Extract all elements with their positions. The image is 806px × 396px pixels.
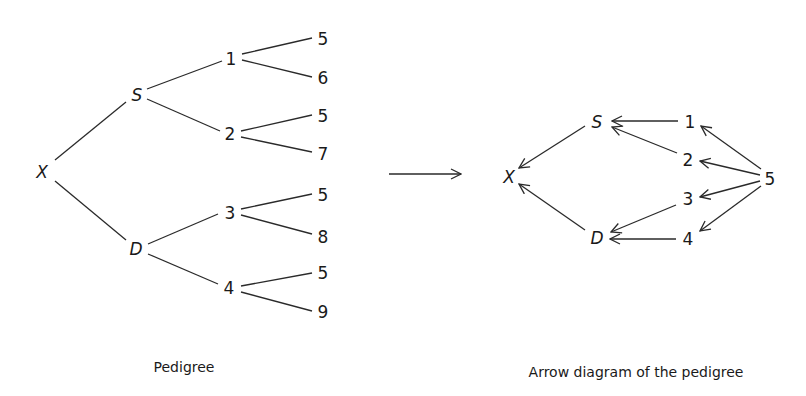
edge-s-1 xyxy=(147,61,222,89)
node-4: 4 xyxy=(683,229,694,249)
edge-1-5 xyxy=(242,38,312,54)
edge-4-5 xyxy=(241,273,312,286)
node-gg-2: 6 xyxy=(318,68,329,88)
node-2: 2 xyxy=(225,124,236,144)
arrow-diagram: X S D 1 2 3 4 5 Arrow diagram of the ped… xyxy=(502,112,775,380)
node-gg-4: 7 xyxy=(318,144,329,164)
node-gg-6: 8 xyxy=(318,227,329,247)
node-5: 5 xyxy=(765,169,776,189)
node-d: D xyxy=(129,239,142,259)
node-gg-1: 5 xyxy=(318,29,329,49)
edge-d-4 xyxy=(148,254,218,284)
node-2: 2 xyxy=(683,150,694,170)
node-gg-5: 5 xyxy=(318,185,329,205)
arrow-3-d xyxy=(611,205,676,232)
arrow-s-x xyxy=(519,126,585,168)
edge-2-7 xyxy=(241,137,312,152)
node-x: X xyxy=(35,162,48,182)
edge-s-2 xyxy=(147,99,220,131)
edge-4-9 xyxy=(241,292,312,311)
node-gg-8: 9 xyxy=(318,302,329,322)
edge-1-6 xyxy=(242,60,312,77)
edge-3-5 xyxy=(241,194,312,209)
node-s: S xyxy=(592,112,603,132)
arrow-2-s xyxy=(612,127,677,153)
arrow-diagram-caption: Arrow diagram of the pedigree xyxy=(529,364,744,380)
node-x: X xyxy=(502,167,515,187)
arrow-5-4 xyxy=(700,186,761,231)
node-gg-3: 5 xyxy=(318,106,329,126)
arrow-5-2 xyxy=(700,161,760,175)
node-1: 1 xyxy=(685,112,696,132)
node-gg-7: 5 xyxy=(318,263,329,283)
edge-3-8 xyxy=(241,215,312,234)
arrow-5-1 xyxy=(701,126,761,169)
arrow-5-3 xyxy=(700,181,760,197)
node-1: 1 xyxy=(226,49,237,69)
edge-2-5 xyxy=(241,115,312,131)
node-3: 3 xyxy=(225,203,236,223)
edge-d-3 xyxy=(148,214,218,244)
arrow-d-x xyxy=(519,184,585,230)
node-s: S xyxy=(132,85,143,105)
node-4: 4 xyxy=(224,278,235,298)
node-3: 3 xyxy=(683,189,694,209)
pedigree-tree: X S D 1 2 3 4 5 6 5 7 5 8 5 9 Pedigree xyxy=(35,29,328,375)
edge-x-s xyxy=(55,102,126,160)
edge-x-d xyxy=(55,181,126,240)
pedigree-figure: X S D 1 2 3 4 5 6 5 7 5 8 5 9 Pedigree X… xyxy=(0,0,806,396)
node-d: D xyxy=(590,228,603,248)
pedigree-caption: Pedigree xyxy=(154,359,215,375)
